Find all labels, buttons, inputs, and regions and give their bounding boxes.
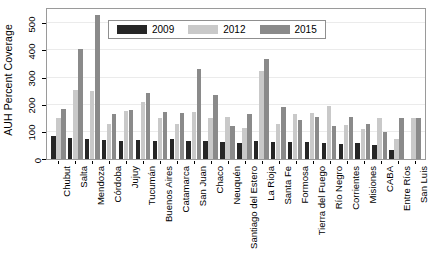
x-axis-tick: Santa Fe	[270, 161, 287, 266]
bar	[288, 142, 292, 159]
x-axis-tick: Chaco	[202, 161, 219, 266]
bar	[394, 139, 398, 159]
bar	[247, 114, 251, 159]
bar	[107, 124, 111, 159]
bar	[56, 118, 60, 159]
legend-swatch	[117, 25, 147, 34]
y-axis-title: AUH Percent Coverage	[0, 0, 16, 160]
bar	[175, 124, 179, 159]
bar	[124, 111, 128, 159]
bar-group	[371, 9, 388, 159]
bar	[141, 102, 145, 159]
bar	[153, 141, 157, 159]
bar	[237, 143, 241, 159]
y-axis-tick-label: 300	[27, 71, 38, 87]
bar	[339, 144, 343, 159]
bar-group	[337, 9, 354, 159]
bar	[399, 118, 403, 159]
x-axis-tick: Neuquén	[219, 161, 236, 266]
bar	[349, 117, 353, 159]
x-axis-tick: Misiones	[355, 161, 372, 266]
bar	[192, 112, 196, 160]
y-axis: 0100200300400500	[16, 8, 46, 160]
x-axis-tick-mark	[347, 161, 348, 164]
x-axis-tick: Jujuy	[117, 161, 134, 266]
x-axis-tick: CABA	[372, 161, 389, 266]
bar	[254, 141, 258, 159]
bar	[102, 140, 106, 159]
bar	[416, 118, 420, 159]
x-axis-tick-label: San Luis	[419, 166, 429, 203]
bar	[355, 143, 359, 159]
bar	[389, 150, 393, 160]
x-axis-tick: Formosa	[287, 161, 304, 266]
x-axis-tick: Buenos Aires	[151, 161, 168, 266]
x-axis-tick-mark	[398, 161, 399, 164]
bar	[129, 110, 133, 159]
bar	[361, 129, 365, 159]
y-axis-tick-label: 500	[27, 16, 38, 32]
bar	[170, 139, 174, 159]
x-axis-tick: Río Negro	[321, 161, 338, 266]
bar	[68, 138, 72, 159]
legend-label: 2009	[152, 24, 174, 35]
bar	[225, 117, 229, 159]
legend-item[interactable]: 2009	[117, 24, 174, 35]
x-axis-tick-mark	[58, 161, 59, 164]
bar	[85, 139, 89, 159]
x-axis-tick-mark	[177, 161, 178, 164]
bar-group	[67, 9, 84, 159]
x-axis-tick: Tucumán	[134, 161, 151, 266]
bar	[411, 118, 415, 159]
bar	[61, 109, 65, 159]
x-axis-tick-mark	[245, 161, 246, 164]
legend-swatch	[188, 25, 218, 34]
bar	[146, 93, 150, 160]
bar	[112, 114, 116, 159]
bar	[136, 140, 140, 159]
legend-label: 2012	[223, 24, 245, 35]
x-axis-tick: Entre Ríos	[389, 161, 406, 266]
chart-figure: AUH Percent Coverage 0100200300400500 20…	[0, 0, 433, 269]
x-axis-tick-mark	[92, 161, 93, 164]
x-axis-tick-mark	[109, 161, 110, 164]
legend-item[interactable]: 2015	[260, 24, 317, 35]
legend-label: 2015	[295, 24, 317, 35]
x-axis-tick-mark	[143, 161, 144, 164]
x-axis-tick-mark	[211, 161, 212, 164]
bar	[298, 120, 302, 159]
x-axis-tick-mark	[330, 161, 331, 164]
bar	[377, 118, 381, 159]
bar	[73, 90, 77, 159]
x-axis-tick: San Luis	[406, 161, 423, 266]
x-axis-tick-mark	[381, 161, 382, 164]
bar	[220, 142, 224, 159]
x-axis-tick-mark	[313, 161, 314, 164]
bar	[372, 145, 376, 159]
bar	[315, 117, 319, 159]
y-axis-title-text: AUH Percent Coverage	[2, 24, 14, 136]
bar	[203, 141, 207, 159]
x-axis-tick-mark	[364, 161, 365, 164]
bar-group	[388, 9, 405, 159]
bar	[332, 126, 336, 159]
legend-item[interactable]: 2012	[188, 24, 245, 35]
bar	[344, 125, 348, 159]
bar	[230, 126, 234, 159]
bar	[327, 106, 331, 159]
bar	[119, 141, 123, 159]
x-axis-tick-mark	[296, 161, 297, 164]
x-axis-tick-mark	[126, 161, 127, 164]
x-axis-tick: San Juan	[185, 161, 202, 266]
bar	[180, 113, 184, 159]
bar	[293, 114, 297, 159]
legend: 200920122015	[108, 20, 326, 39]
bar	[281, 107, 285, 159]
bar-group	[50, 9, 67, 159]
bar	[78, 49, 82, 159]
x-axis-tick: Catamarca	[168, 161, 185, 266]
bar	[163, 112, 167, 159]
x-axis-tick-mark	[228, 161, 229, 164]
x-axis-tick: Salta	[66, 161, 83, 266]
bar-group	[354, 9, 371, 159]
